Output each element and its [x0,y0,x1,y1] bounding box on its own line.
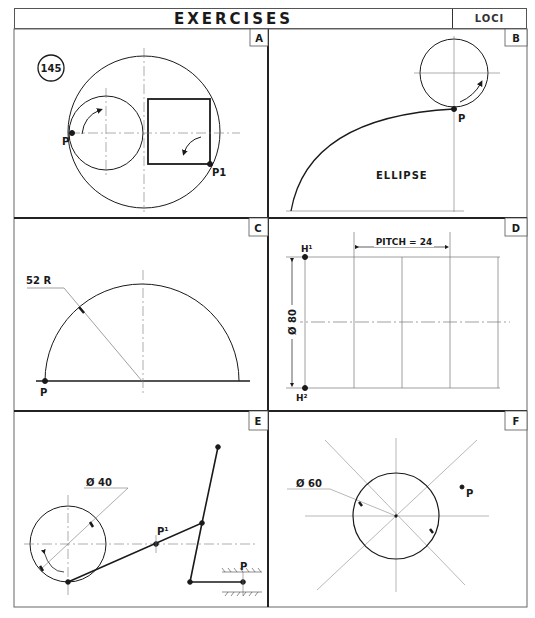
label-h1: H¹ [301,244,313,254]
panel-b: P ELLIPSE [286,36,500,212]
panel-a: 145 P P1 [38,48,240,212]
caption-ellipse: ELLIPSE [376,170,428,181]
point-p-marker [452,107,457,112]
label-pitch: PITCH = 24 [376,237,433,247]
svg-text:145: 145 [41,63,62,74]
label-p1: P1 [212,167,226,178]
svg-text:C: C [254,223,261,234]
label-diameter: Ø 40 [86,477,112,488]
panel-labels: A B C D E F [249,29,527,430]
panel-d: PITCH = 24 Ø 80 H¹ H² [284,232,510,403]
point-h1-marker [303,255,308,260]
panel-label-c: C [249,218,268,236]
panel-label-d: D [505,218,527,236]
svg-text:E: E [255,416,262,427]
drawing-canvas: A B C D E F [0,0,535,618]
panel-label-a: A [250,29,268,46]
panel-f: P Ø 60 [287,438,489,592]
point-h2-marker [303,386,308,391]
exercise-number-badge: 145 [38,55,64,81]
svg-text:D: D [512,223,520,234]
label-p: P [466,488,473,499]
panel-e: Ø 40 P¹ P [24,445,262,596]
point-p-marker [460,485,464,489]
label-radius: 52 R [26,275,51,286]
panel-label-b: B [505,29,527,46]
drawing-sheet: EXERCISES LOCI A B [0,0,535,618]
label-p: P [458,113,465,124]
panel-c: P 52 R [26,270,250,398]
label-p: P [62,136,69,147]
label-diameter: Ø 60 [296,478,322,489]
point-p1-marker [208,162,213,167]
point-p-marker [70,131,75,136]
svg-text:A: A [255,33,263,44]
label-p1: P¹ [157,526,169,537]
label-p: P [240,561,247,572]
label-p: P [40,387,47,398]
label-h2: H² [296,393,308,403]
panel-label-e: E [249,411,268,430]
point-p-marker [43,379,48,384]
label-diameter: Ø 80 [287,309,298,335]
svg-text:F: F [513,416,520,427]
panel-label-f: F [505,411,527,430]
svg-text:B: B [512,33,520,44]
